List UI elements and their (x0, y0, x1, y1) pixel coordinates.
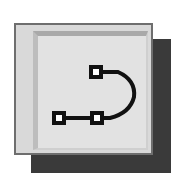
path-nodes-icon (0, 0, 178, 181)
node-bottom-left (52, 111, 66, 125)
node-bottom-middle (90, 111, 104, 125)
node-top (89, 65, 103, 79)
